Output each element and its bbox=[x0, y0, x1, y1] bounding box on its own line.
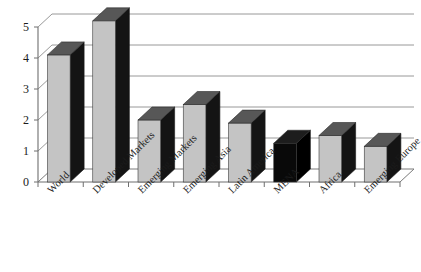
y-tick-label-0: 0 bbox=[23, 175, 29, 189]
y-tick-label-3: 3 bbox=[23, 82, 29, 96]
chart-canvas: 0 1 2 3 4 5 WorldDeveloped MarketsEmergi… bbox=[0, 0, 421, 272]
bar-side-face bbox=[70, 42, 84, 182]
y-tick-label-1: 1 bbox=[23, 144, 29, 158]
y-tick-labels: 0 1 2 3 4 5 bbox=[23, 20, 29, 189]
bar-world[interactable] bbox=[48, 42, 85, 182]
y-tick-label-2: 2 bbox=[23, 113, 29, 127]
y-tick-label-4: 4 bbox=[23, 51, 29, 65]
floor-right-edge bbox=[400, 169, 414, 182]
y-tick-marks bbox=[34, 27, 38, 182]
bar-chart: 0 1 2 3 4 5 WorldDeveloped MarketsEmergi… bbox=[0, 0, 421, 272]
y-tick-label-5: 5 bbox=[23, 20, 29, 34]
bar-front-face bbox=[48, 55, 71, 182]
bar-front-face bbox=[93, 21, 116, 182]
